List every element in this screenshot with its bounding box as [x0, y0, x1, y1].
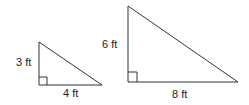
- large-horizontal-leg-label: 8 ft: [172, 89, 187, 100]
- small-triangle-outline: [39, 42, 102, 85]
- large-right-angle-marker: [128, 72, 137, 82]
- small-triangle: [39, 42, 102, 85]
- small-right-angle-marker: [39, 77, 47, 85]
- small-vertical-leg-label: 3 ft: [16, 57, 31, 68]
- similar-triangles-diagram: 3 ft 4 ft 6 ft 8 ft: [0, 0, 249, 105]
- small-horizontal-leg-label: 4 ft: [63, 88, 78, 99]
- triangles-svg: [0, 0, 249, 105]
- large-triangle: [128, 6, 238, 82]
- large-vertical-leg-label: 6 ft: [102, 39, 117, 50]
- large-triangle-outline: [128, 6, 238, 82]
